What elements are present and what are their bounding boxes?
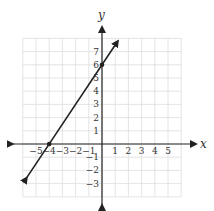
y-tick-label: −1 — [86, 152, 99, 162]
x-tick-label: 4 — [152, 146, 158, 156]
y-tick-label: −2 — [86, 165, 99, 175]
x-axis-label: x — [200, 137, 207, 151]
x-tick-label: −3 — [56, 146, 70, 156]
x-tick-label: 3 — [139, 146, 145, 156]
x-tick-label: −2 — [69, 146, 82, 156]
y-tick-label: 6 — [93, 60, 99, 70]
y-tick-label: 3 — [93, 99, 99, 109]
y-tick-label: −3 — [86, 179, 100, 189]
y-tick-label: 4 — [93, 86, 99, 96]
y-tick-label: 7 — [93, 47, 99, 57]
y-axis-label: y — [97, 8, 105, 22]
y-tick-label: 1 — [93, 126, 99, 136]
intercept-point — [47, 142, 52, 147]
x-tick-label: −5 — [29, 146, 43, 156]
intercept-point — [100, 63, 105, 68]
coordinate-plane: xy−5−4−3−2−1123457654321−1−2−3 — [0, 0, 214, 211]
y-tick-label: 2 — [93, 113, 99, 123]
x-tick-label: 5 — [165, 146, 171, 156]
x-tick-label: 1 — [112, 146, 118, 156]
x-tick-label: 2 — [126, 146, 132, 156]
